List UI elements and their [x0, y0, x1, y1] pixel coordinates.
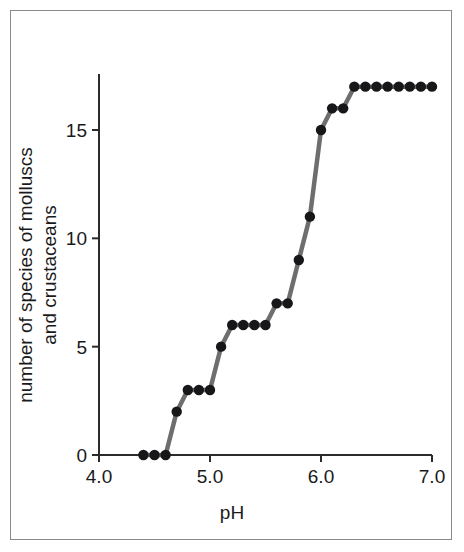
- data-point: [138, 450, 148, 460]
- x-axis-tick-labels: 4.05.06.07.0: [86, 466, 445, 487]
- y-axis-title-line-2: and crustaceans: [39, 205, 60, 344]
- y-tick-label-5: 5: [76, 337, 87, 358]
- data-point: [216, 341, 226, 351]
- x-tick-label-4.0: 4.0: [86, 466, 112, 487]
- chart-plot-area: 051015 4.05.06.07.0 pH number of species…: [0, 0, 464, 552]
- data-point: [149, 450, 159, 460]
- data-point: [205, 385, 215, 395]
- data-point: [371, 81, 381, 91]
- data-point: [360, 81, 370, 91]
- data-point: [338, 103, 348, 113]
- data-point: [405, 81, 415, 91]
- data-point: [194, 385, 204, 395]
- data-point: [327, 103, 337, 113]
- data-point: [238, 320, 248, 330]
- data-point: [305, 211, 315, 221]
- y-tick-label-15: 15: [66, 120, 87, 141]
- data-point: [172, 406, 182, 416]
- data-point: [427, 81, 437, 91]
- y-axis-ticks: [92, 130, 99, 455]
- x-tick-label-5.0: 5.0: [197, 466, 223, 487]
- data-point: [349, 81, 359, 91]
- figure-page: 051015 4.05.06.07.0 pH number of species…: [0, 0, 464, 552]
- data-point: [183, 385, 193, 395]
- x-tick-label-6.0: 6.0: [308, 466, 334, 487]
- data-point: [316, 125, 326, 135]
- x-axis-title: pH: [220, 502, 244, 523]
- y-tick-label-10: 10: [66, 228, 87, 249]
- data-point: [271, 298, 281, 308]
- y-tick-label-0: 0: [76, 445, 87, 466]
- data-point: [416, 81, 426, 91]
- data-point: [294, 255, 304, 265]
- data-point: [283, 298, 293, 308]
- data-point: [394, 81, 404, 91]
- line-chart: 051015 4.05.06.07.0 pH number of species…: [0, 0, 464, 552]
- data-point: [249, 320, 259, 330]
- y-axis-title-line-1: number of species of molluscs: [15, 147, 36, 403]
- x-tick-label-7.0: 7.0: [419, 466, 445, 487]
- data-point: [160, 450, 170, 460]
- data-point: [227, 320, 237, 330]
- series-line-molluscs-crustaceans: [143, 87, 432, 455]
- data-point: [260, 320, 270, 330]
- data-point: [382, 81, 392, 91]
- y-axis-tick-labels: 051015: [66, 120, 87, 466]
